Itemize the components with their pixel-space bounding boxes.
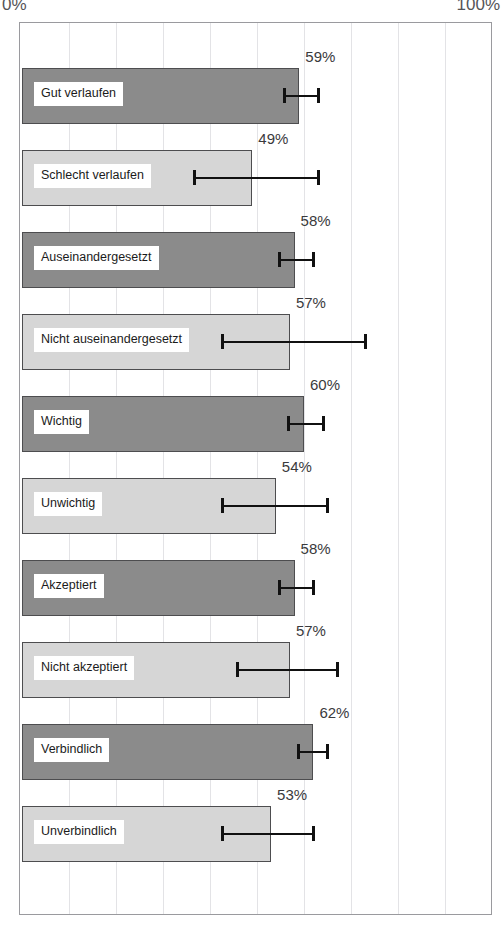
bar-category-label: Unverbindlich — [34, 820, 124, 844]
bar-row: Verbindlich62% — [22, 724, 491, 780]
error-bar-line — [297, 751, 330, 753]
bar-row: Schlecht verlaufen49% — [22, 150, 491, 206]
error-bar-cap-high — [364, 334, 367, 349]
bar-value-label: 57% — [296, 294, 326, 311]
error-bar-cap-high — [312, 252, 315, 267]
error-bar — [221, 340, 367, 344]
error-bar-cap-low — [236, 662, 239, 677]
bar-category-label: Verbindlich — [34, 738, 109, 762]
bar-value-label: 53% — [277, 786, 307, 803]
error-bar-cap-low — [221, 498, 224, 513]
error-bar-line — [221, 341, 367, 343]
bar-row: Unwichtig54% — [22, 478, 491, 534]
bar-value-label: 60% — [310, 376, 340, 393]
error-bar-line — [278, 259, 316, 261]
error-bar — [236, 668, 339, 672]
bar-value-label: 49% — [258, 130, 288, 147]
error-bar-cap-low — [278, 580, 281, 595]
error-bar — [221, 832, 315, 836]
error-bar-line — [287, 423, 325, 425]
bar-value-label: 62% — [319, 704, 349, 721]
bar-row: Wichtig60% — [22, 396, 491, 452]
bar-value-label: 57% — [296, 622, 326, 639]
error-bar-cap-low — [278, 252, 281, 267]
error-bar — [283, 94, 321, 98]
bar-row: Auseinandergesetzt58% — [22, 232, 491, 288]
error-bar — [278, 258, 316, 262]
bar-category-label: Nicht akzeptiert — [34, 656, 134, 680]
error-bar-cap-low — [221, 826, 224, 841]
error-bar-cap-high — [322, 416, 325, 431]
error-bar-cap-high — [317, 88, 320, 103]
bar-value-label: 58% — [301, 212, 331, 229]
error-bar-cap-high — [336, 662, 339, 677]
error-bar-line — [221, 505, 329, 507]
error-bar — [297, 750, 330, 754]
error-bar-line — [278, 587, 316, 589]
error-bar-line — [221, 833, 315, 835]
bar-category-label: Nicht auseinandergesetzt — [34, 328, 189, 352]
axis-min-label: 0% — [2, 0, 27, 15]
error-bar-cap-low — [287, 416, 290, 431]
bar-category-label: Wichtig — [34, 410, 89, 434]
error-bar-line — [236, 669, 339, 671]
error-bar-line — [193, 177, 320, 179]
error-bar-cap-low — [193, 170, 196, 185]
error-bar-cap-high — [326, 498, 329, 513]
bar-category-label: Gut verlaufen — [34, 82, 123, 106]
error-bar-cap-low — [221, 334, 224, 349]
bar-value-label: 58% — [301, 540, 331, 557]
bar-row: Nicht akzeptiert57% — [22, 642, 491, 698]
bar-row: Gut verlaufen59% — [22, 68, 491, 124]
error-bar — [278, 586, 316, 590]
axis-max-label: 100% — [457, 0, 500, 15]
chart-plot-area: Gut verlaufen59%Schlecht verlaufen49%Aus… — [19, 22, 492, 915]
bar-category-label: Unwichtig — [34, 492, 102, 516]
bar-value-label: 59% — [305, 48, 335, 65]
error-bar-cap-high — [326, 744, 329, 759]
bar-row: Akzeptiert58% — [22, 560, 491, 616]
bar-row: Unverbindlich53% — [22, 806, 491, 862]
error-bar-cap-low — [297, 744, 300, 759]
bar-category-label: Schlecht verlaufen — [34, 164, 151, 188]
error-bar — [221, 504, 329, 508]
error-bar — [287, 422, 325, 426]
bar-row: Nicht auseinandergesetzt57% — [22, 314, 491, 370]
bar-category-label: Auseinandergesetzt — [34, 246, 159, 270]
error-bar-cap-high — [312, 826, 315, 841]
bar-category-label: Akzeptiert — [34, 574, 104, 598]
bar-value-label: 54% — [282, 458, 312, 475]
error-bar-cap-low — [283, 88, 286, 103]
error-bar-cap-high — [317, 170, 320, 185]
error-bar — [193, 176, 320, 180]
error-bar-cap-high — [312, 580, 315, 595]
error-bar-line — [283, 95, 321, 97]
bar-series: Gut verlaufen59%Schlecht verlaufen49%Aus… — [20, 23, 491, 914]
